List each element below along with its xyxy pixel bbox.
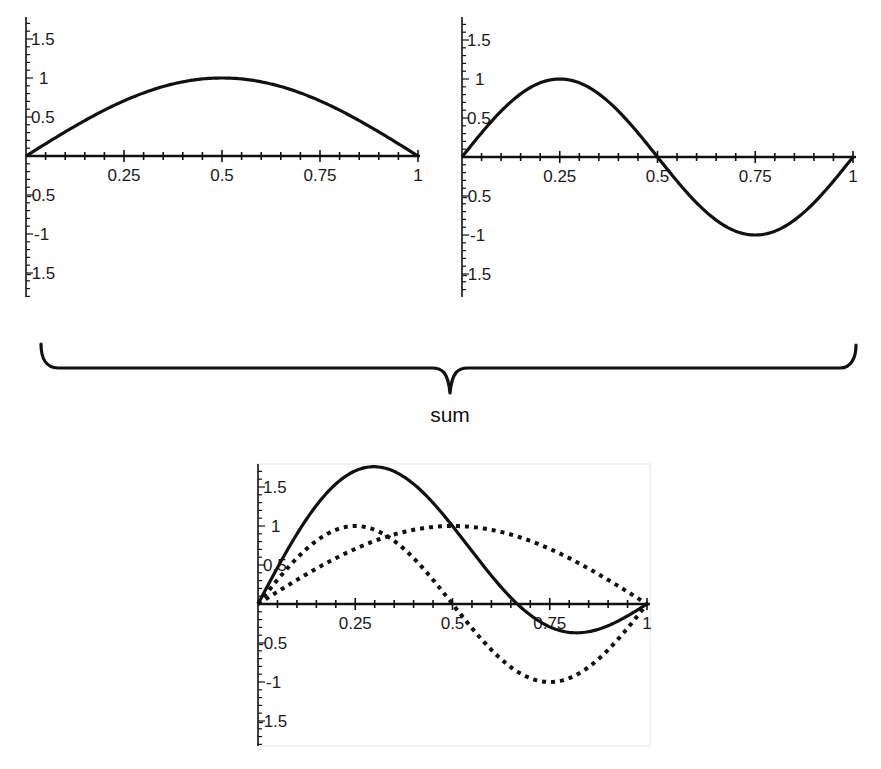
x-tick-label: 0.5 (210, 166, 234, 185)
y-tick-label: -0.5 (258, 634, 287, 653)
y-tick-label: 1.5 (467, 31, 491, 50)
sum-caption: sum (430, 403, 470, 426)
x-tick-label: 1 (642, 614, 651, 633)
x-tick-label: 0.25 (543, 167, 576, 186)
y-tick-label: 1 (39, 69, 48, 88)
y-tick-label: -1.5 (258, 712, 287, 731)
y-tick-label: -1 (34, 225, 49, 244)
x-tick-label: 1 (848, 167, 857, 186)
series-line (258, 526, 647, 604)
x-tick-label: 0.75 (303, 166, 336, 185)
y-tick-label: 1.5 (263, 478, 287, 497)
plot-sin-pi-x: 1.510.5-0.5-1-1.50.250.50.751 (26, 17, 423, 297)
figure-canvas: 1.510.5-0.5-1-1.50.250.50.751 1.510.5-0.… (0, 0, 881, 769)
y-tick-label: 1 (475, 70, 484, 89)
series-line (26, 78, 418, 156)
x-tick-label: 0.25 (339, 614, 372, 633)
y-tick-label: 1 (271, 517, 280, 536)
x-tick-label: 0.25 (107, 166, 140, 185)
y-tick-label: -0.5 (462, 187, 491, 206)
y-tick-label: -1.5 (26, 264, 55, 283)
y-tick-label: 0.5 (31, 108, 55, 127)
plot-sin-2pi-x: 1.510.5-0.5-1-1.50.250.50.751 (462, 17, 858, 297)
y-tick-label: -0.5 (26, 186, 55, 205)
y-tick-label: -1 (470, 226, 485, 245)
y-tick-label: 1.5 (31, 30, 55, 49)
x-tick-label: 1 (413, 166, 422, 185)
plot-sum: 1.510.5-0.5-1-1.50.250.50.751 (258, 464, 652, 746)
y-tick-label: -1.5 (462, 265, 491, 284)
x-tick-label: 0.75 (739, 167, 772, 186)
curly-brace (41, 344, 856, 393)
y-tick-label: -1 (266, 673, 281, 692)
